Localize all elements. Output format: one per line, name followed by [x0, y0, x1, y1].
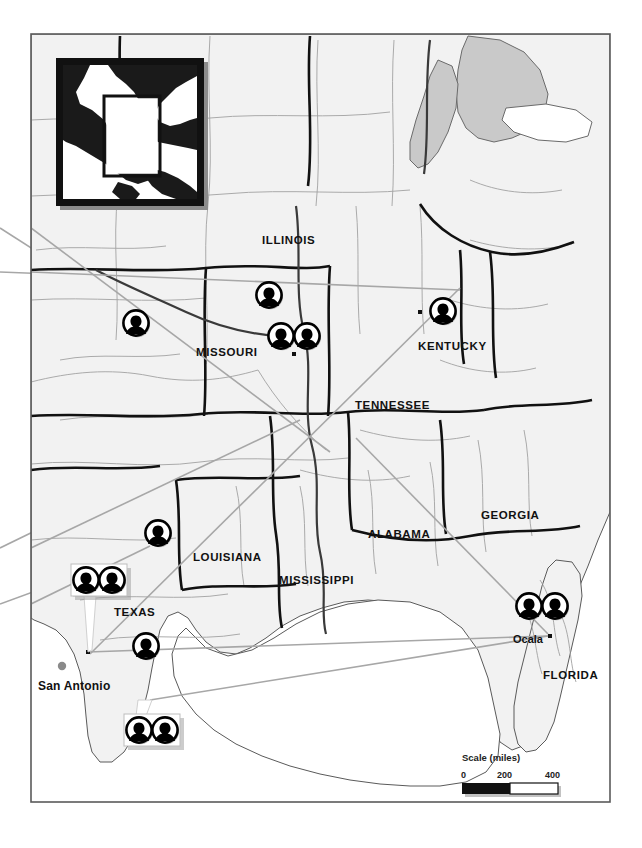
- ocala-dot: [548, 634, 552, 638]
- marker-stlouis-a[interactable]: [268, 323, 295, 350]
- state-label-louisiana: LOUISIANA: [193, 551, 262, 563]
- state-label-tennessee: TENNESSEE: [355, 399, 430, 411]
- state-label-kentucky: KENTUCKY: [418, 340, 487, 352]
- marker-east-texas[interactable]: [145, 520, 172, 547]
- state-label-georgia: GEORGIA: [481, 509, 540, 521]
- kentucky-anchor-dot: [418, 310, 422, 314]
- stlouis-anchor-dot: [292, 352, 296, 356]
- state-label-mississippi: MISSISSIPPI: [279, 574, 354, 586]
- map-figure: ILLINOIS MISSOURI KENTUCKY TENNESSEE LOU…: [0, 0, 642, 848]
- marker-gulf-coast-texas[interactable]: [133, 633, 160, 660]
- city-label-san-antonio: San Antonio: [38, 679, 110, 693]
- state-label-missouri: MISSOURI: [196, 346, 258, 358]
- scale-tick-200: 200: [497, 770, 512, 780]
- scale-bar-empty: [510, 783, 558, 794]
- scale-tick-400: 400: [545, 770, 560, 780]
- state-label-alabama: ALABAMA: [368, 528, 430, 540]
- state-label-florida: FLORIDA: [543, 669, 598, 681]
- marker-kentucky[interactable]: [430, 298, 457, 325]
- scale-bar-filled: [462, 783, 510, 794]
- state-label-illinois: ILLINOIS: [262, 234, 315, 246]
- marker-missouri-west[interactable]: [123, 310, 150, 337]
- scale-tick-0: 0: [461, 770, 466, 780]
- san-antonio-dot: [58, 662, 66, 670]
- scale-title: Scale (miles): [462, 752, 520, 763]
- marker-stlouis-b[interactable]: [294, 323, 321, 350]
- north-america-locator-inset: [56, 58, 208, 210]
- state-label-texas: TEXAS: [114, 606, 155, 618]
- marker-illinois-central[interactable]: [256, 282, 283, 309]
- city-label-ocala: Ocala: [513, 633, 544, 645]
